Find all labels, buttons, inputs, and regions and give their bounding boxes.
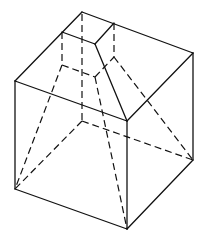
cube-frustum-diagram [0,0,203,242]
hidden-edges [15,14,193,229]
frustum-top-square [62,23,127,121]
